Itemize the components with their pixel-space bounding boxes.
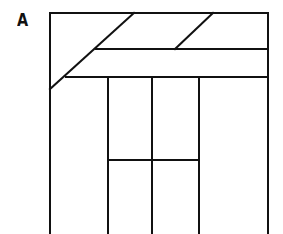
short-diagonal (175, 13, 213, 49)
line-diagram (0, 0, 283, 234)
